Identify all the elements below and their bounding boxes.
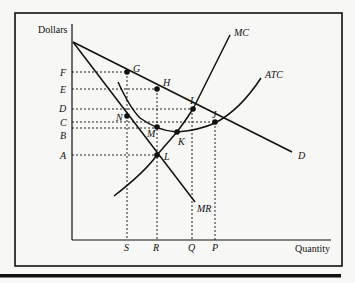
price-label-b: B [60, 130, 66, 141]
quantity-label-p: P [211, 242, 218, 253]
point-label-g: G [133, 63, 140, 74]
quantity-guides [127, 72, 215, 240]
point-label-m: M [146, 128, 156, 139]
point-label-h: H [162, 77, 171, 88]
price-label-e: E [59, 84, 66, 95]
point-label-k: K [177, 136, 186, 147]
point-label-i: I [189, 95, 194, 106]
bottom-rule [0, 274, 341, 278]
intersection-points [124, 69, 218, 158]
atc-label: ATC [264, 69, 283, 80]
y-axis-label: Dollars [38, 24, 68, 35]
demand-label: D [297, 150, 306, 161]
mc-label: MC [233, 27, 249, 38]
quantity-label-q: Q [188, 242, 196, 253]
monopoly-diagram: Dollars Quantity F E D C B A S R Q P MC … [0, 0, 355, 283]
x-axis-label: Quantity [295, 243, 330, 254]
quantity-label-s: S [124, 242, 129, 253]
point-label-j: J [212, 109, 217, 120]
price-label-a: A [59, 150, 67, 161]
point-label-n: N [115, 112, 124, 123]
price-guides [72, 72, 215, 155]
price-label-c: C [60, 117, 67, 128]
price-label-d: D [58, 103, 67, 114]
point-label-l: L [163, 151, 170, 162]
quantity-label-r: R [152, 242, 159, 253]
price-label-f: F [59, 67, 67, 78]
mr-label: MR [196, 203, 211, 214]
